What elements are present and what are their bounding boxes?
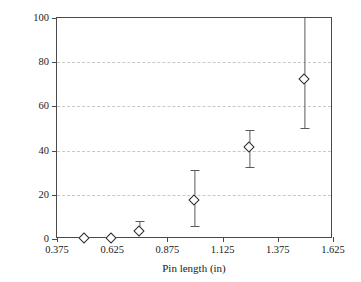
y-tick-mark-80 [52,62,57,63]
gridline-y-40 [57,151,331,152]
x-tick-mark-0.375 [57,237,58,242]
y-tick-label-60: 60 [39,101,50,112]
error-bar-cap-lower [301,128,310,129]
x-tick-mark-1.625 [333,237,334,242]
marker-diamond [133,226,144,237]
marker-diamond [299,73,310,84]
y-tick-label-80: 80 [39,57,50,68]
y-tick-label-0: 0 [44,234,49,245]
x-tick-label-0.375: 0.375 [45,245,69,256]
y-tick-label-100: 100 [33,13,49,24]
x-tick-label-0.625: 0.625 [100,245,124,256]
x-tick-label-1.375: 1.375 [266,245,290,256]
y-tick-mark-40 [52,151,57,152]
y-tick-label-20: 20 [39,190,50,201]
y-tick-mark-100 [52,18,57,19]
x-tick-mark-1.375 [278,237,279,242]
y-tick-mark-60 [52,106,57,107]
x-tick-label-1.625: 1.625 [321,245,345,256]
chart-figure: Circumferential Cracking % 020406080100 … [0,0,361,282]
gridline-y-60 [57,106,331,107]
y-tick-mark-20 [52,195,57,196]
x-axis-title: Pin length (in) [56,262,332,274]
x-tick-mark-0.875 [167,237,168,242]
error-bar-cap-lower [246,167,255,168]
error-bar-cap-upper [135,221,144,222]
plot-area: 020406080100 0.3750.6250.8751.1251.3751.… [56,17,332,238]
gridline-y-80 [57,62,331,63]
marker-diamond [188,195,199,206]
error-bar-cap-upper [191,170,200,171]
x-tick-mark-1.125 [223,237,224,242]
error-bar-cap-lower [191,226,200,227]
marker-diamond [78,232,89,243]
x-tick-label-0.875: 0.875 [156,245,180,256]
marker-diamond [106,232,117,243]
y-tick-label-40: 40 [39,145,50,156]
x-tick-label-1.125: 1.125 [211,245,235,256]
error-bar-cap-upper [246,130,255,131]
error-bar-line [305,18,306,129]
